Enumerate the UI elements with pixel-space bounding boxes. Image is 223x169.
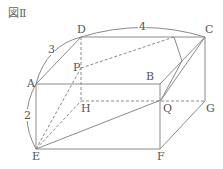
label-DC-length: 4 [139,20,146,33]
segment-cut-Q [161,61,182,100]
figure-title: 図Ⅱ [8,7,26,20]
segment-P-top [81,37,174,68]
vertex-F: F [157,150,165,163]
segment-EQ [36,100,161,149]
vertex-A: A [26,77,36,90]
cuboid-diagram: 図Ⅱ 3 4 2 A D C B P H [0,0,223,169]
vertex-B: B [146,70,154,83]
edge-BC [160,37,205,84]
vertex-P: P [73,61,81,74]
segment-CQ [161,37,205,100]
vertex-C: C [205,23,213,36]
label-AE-length: 2 [24,109,31,122]
vertex-G: G [206,102,215,115]
vertex-H: H [81,102,91,115]
label-AD-length: 3 [48,43,55,56]
vertex-Q: Q [163,102,172,115]
vertex-D: D [77,23,86,36]
vertex-E: E [32,150,40,163]
segment-top-cut [174,37,182,61]
